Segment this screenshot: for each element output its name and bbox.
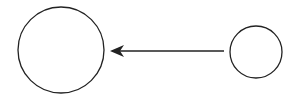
small-circle xyxy=(230,26,282,78)
large-circle xyxy=(18,7,104,93)
diagram-canvas xyxy=(0,0,299,101)
